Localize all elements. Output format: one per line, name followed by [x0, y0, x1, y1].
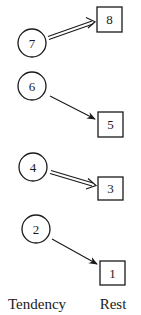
pair-4-3: 4 3 — [19, 153, 123, 200]
rest-node-3: 3 — [98, 177, 123, 200]
tendency-rest-diagram: 7 8 6 5 4 — [0, 0, 141, 315]
tendency-node-4: 4 — [19, 153, 47, 181]
rest-node-label: 8 — [106, 12, 113, 27]
tendency-node-label: 7 — [29, 36, 36, 51]
single-arrow-icon — [52, 239, 97, 264]
rest-node-8: 8 — [97, 7, 122, 32]
rest-node-1: 1 — [100, 261, 125, 285]
double-arrow-icon — [50, 171, 96, 190]
rest-node-label: 1 — [109, 266, 116, 281]
tendency-node-label: 2 — [33, 222, 40, 237]
pair-6-5: 6 5 — [18, 72, 123, 137]
tendency-node-6: 6 — [18, 72, 46, 100]
rest-column-label: Rest — [100, 296, 128, 312]
rest-node-label: 5 — [107, 117, 114, 132]
double-arrow-icon — [48, 18, 95, 40]
pair-7-8: 7 8 — [18, 7, 122, 57]
tendency-node-label: 4 — [30, 160, 37, 175]
pair-2-1: 2 1 — [22, 215, 125, 285]
rest-node-label: 3 — [107, 181, 114, 196]
rest-node-5: 5 — [98, 112, 123, 137]
tendency-node-label: 6 — [29, 79, 36, 94]
tendency-node-7: 7 — [18, 29, 46, 57]
single-arrow-icon — [50, 96, 95, 119]
tendency-column-label: Tendency — [8, 296, 67, 312]
tendency-node-2: 2 — [22, 215, 50, 243]
